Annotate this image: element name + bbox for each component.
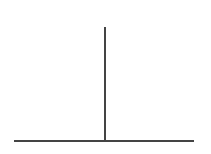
vertical-line <box>104 27 106 141</box>
diagram-canvas <box>0 0 211 154</box>
